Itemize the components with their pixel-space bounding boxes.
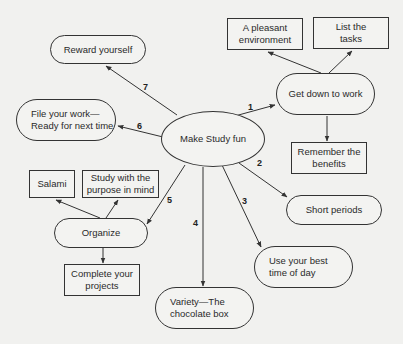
node-label: Study with the purpose in mind	[87, 172, 155, 196]
node-reward-yourself: Reward yourself	[50, 35, 146, 64]
node-label: Reward yourself	[64, 44, 133, 56]
node-label: File your work— Ready for next time	[31, 108, 113, 132]
node-file-your-work: File your work— Ready for next time	[16, 99, 116, 141]
node-label: Salami	[37, 178, 66, 190]
edge-number-label: 7	[143, 82, 148, 92]
connector-arrow	[106, 200, 118, 218]
node-remember-benefits: Remember the benefits	[291, 142, 367, 174]
node-label: Get down to work	[289, 88, 363, 100]
node-label: Remember the benefits	[298, 146, 361, 170]
node-label: Short periods	[306, 204, 363, 216]
edge-number-label: 3	[242, 196, 247, 206]
node-label: Variety—The chocolate box	[170, 296, 229, 320]
connector-arrow	[106, 66, 177, 115]
node-salami: Salami	[29, 170, 75, 198]
node-pleasant-environment: A pleasant environment	[227, 18, 303, 50]
connector-arrow	[329, 51, 352, 73]
node-label: List the tasks	[336, 21, 367, 45]
node-complete-projects: Complete your projects	[64, 264, 140, 296]
connector-arrow	[239, 163, 287, 197]
connector-arrow	[56, 200, 100, 218]
connector-arrow	[222, 165, 261, 247]
node-label: Make Study fun	[180, 133, 246, 145]
node-study-with-purpose: Study with the purpose in mind	[82, 170, 159, 198]
node-label: A pleasant environment	[239, 22, 291, 46]
node-label: Use your best time of day	[269, 255, 328, 279]
node-variety-chocolate-box: Variety—The chocolate box	[155, 287, 254, 329]
edge-number-label: 2	[257, 158, 262, 168]
node-label: Organize	[82, 227, 121, 239]
node-short-periods: Short periods	[286, 195, 382, 225]
node-list-tasks: List the tasks	[313, 17, 389, 49]
edge-number-label: 1	[248, 102, 253, 112]
central-node: Make Study fun	[161, 111, 265, 167]
node-organize: Organize	[54, 218, 148, 248]
connector-arrow	[268, 52, 321, 73]
node-label: Complete your projects	[71, 268, 133, 292]
node-best-time-of-day: Use your best time of day	[254, 246, 353, 288]
edge-number-label: 5	[167, 195, 172, 205]
edge-number-label: 6	[137, 121, 142, 131]
node-get-down-to-work: Get down to work	[276, 73, 375, 115]
edge-number-label: 4	[193, 218, 198, 228]
mind-map: 1234567Make Study funGet down to workA p…	[0, 0, 403, 344]
